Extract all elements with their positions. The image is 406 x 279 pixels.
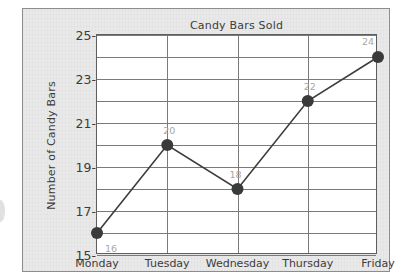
plot-area: 25-23-21-19-17-15- MondayTuesdayWednesda… xyxy=(96,34,377,254)
x-axis-tick-label: Friday xyxy=(361,257,394,270)
data-point-marker xyxy=(161,139,173,151)
figure-frame: Candy Bars Sold Number of Candy Bars 25-… xyxy=(22,8,390,272)
data-point-marker xyxy=(372,51,384,63)
y-axis-tick-label: 25- xyxy=(76,28,96,43)
y-axis-tick-label: 21- xyxy=(76,116,96,131)
data-point-marker xyxy=(91,227,103,239)
data-series xyxy=(97,35,378,255)
gridline-horizontal xyxy=(97,255,376,256)
y-axis-tick-label: 23- xyxy=(76,72,96,87)
x-axis-tick-label: Wednesday xyxy=(206,257,270,270)
y-axis-title: Number of Candy Bars xyxy=(45,56,58,236)
chart-screenshot: Candy Bars Sold Number of Candy Bars 25-… xyxy=(0,0,406,279)
y-axis-tick-label: 17- xyxy=(76,204,96,219)
page-edge-artifact xyxy=(0,200,5,222)
series-line xyxy=(97,57,378,233)
data-point-marker xyxy=(232,183,244,195)
data-point-marker xyxy=(302,95,314,107)
x-axis-tick-label: Thursday xyxy=(282,257,333,270)
chart-title: Candy Bars Sold xyxy=(96,19,377,32)
x-axis-tick-label: Monday xyxy=(75,257,118,270)
x-axis-tick-label: Tuesday xyxy=(145,257,190,270)
y-axis-tick-label: 19- xyxy=(76,160,96,175)
